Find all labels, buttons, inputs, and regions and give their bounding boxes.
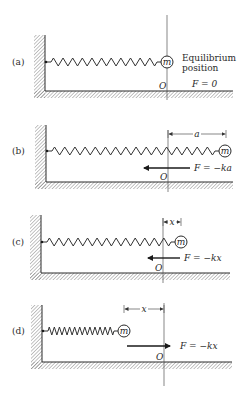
wall-hatch [30,215,41,280]
panel-label: (d) [12,326,25,336]
force-label: F = −ka [193,163,232,173]
panel-label: (b) [12,146,25,156]
panel-b: (b)OmF = −kaa [12,125,233,192]
spring-anchor [41,241,44,244]
wall-floor-line [46,125,233,182]
floor-hatch [31,362,232,369]
spring-mass-diagram: (a)OmEquilibriumpositionF = 0(b)OmF = −k… [0,0,246,395]
force-label: F = 0 [191,79,218,89]
force-label: F = −kx [179,341,218,351]
panel-label: (a) [12,57,24,67]
mass-label: m [120,326,129,336]
origin-label: O [159,81,167,91]
panel-a: (a)OmEquilibriumpositionF = 0 [12,15,237,100]
spring [47,58,161,66]
origin-label: O [155,263,163,273]
dimension-label: a [194,129,199,139]
wall-floor-line [41,215,230,273]
mass-label: m [221,146,230,156]
spring-anchor [42,330,45,333]
floor-hatch [34,91,233,98]
force-label: F = −kx [183,253,222,263]
origin-label: O [156,352,164,362]
equilibrium-label: Equilibrium [182,53,237,63]
spring [48,147,219,155]
mass-label: m [177,237,186,247]
panel-d: (d)OmF = −kxx [12,303,232,386]
wall-hatch [34,35,45,98]
floor-hatch [35,182,233,189]
mass-label: m [163,57,172,67]
wall-floor-line [42,305,232,362]
floor-hatch [30,273,230,280]
spring [44,327,118,335]
equilibrium-label: position [182,63,219,73]
panel-label: (c) [12,237,24,247]
spring-anchor [46,150,49,153]
spring-anchor [45,61,48,64]
wall-hatch [31,305,42,369]
dimension-label: x [169,217,174,227]
panel-c: (c)OmF = −kxx [12,215,230,283]
wall-hatch [35,125,46,189]
spring [43,238,175,246]
origin-label: O [160,172,168,182]
dimension-label: x [141,304,146,314]
